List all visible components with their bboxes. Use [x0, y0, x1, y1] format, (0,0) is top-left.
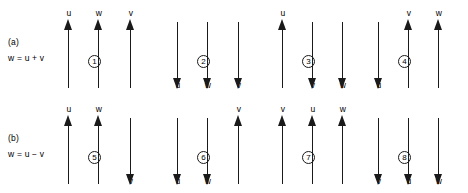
- vector-b6-u: u: [167, 96, 189, 192]
- row-a-equation: w = u + v: [8, 54, 44, 63]
- vector-label: v: [272, 104, 294, 114]
- vector-a1-w: w: [88, 0, 110, 96]
- vector-b5-u: u: [58, 96, 80, 192]
- vector-label: v: [398, 8, 420, 18]
- vector-label: w: [428, 8, 450, 18]
- vector-label: v: [228, 104, 250, 114]
- vector-a4-u: u: [368, 0, 390, 96]
- figure-row-b: (b) w = u − v 5 u w v 6 u w: [0, 96, 468, 192]
- vector-b5-v: v: [120, 96, 142, 192]
- vector-a3-u: u: [272, 0, 294, 96]
- vector-a1-u: u: [58, 0, 80, 96]
- arrow-shaft: [312, 118, 313, 184]
- row-a-tag: (a): [8, 38, 19, 47]
- vector-label: u: [302, 104, 324, 114]
- vector-b6-w: w: [197, 96, 219, 192]
- vector-a3-w: w: [332, 0, 354, 96]
- vector-b7-w: w: [332, 96, 354, 192]
- vector-b7-v: v: [272, 96, 294, 192]
- figure-row-a: (a) w = u + v 1 u w v 2 u w: [0, 0, 468, 96]
- row-b-equation: w = u − v: [8, 150, 44, 159]
- vector-addition-figure: (a) w = u + v 1 u w v 2 u w: [0, 0, 468, 193]
- vector-a4-w: w: [428, 0, 450, 96]
- vector-a2-v: v: [228, 0, 250, 96]
- vector-a3-v: v: [302, 0, 324, 96]
- arrow-shaft: [238, 22, 239, 88]
- vector-b8-w: w: [428, 96, 450, 192]
- arrow-shaft: [177, 22, 178, 88]
- arrow-shaft: [438, 118, 439, 184]
- vector-a2-u: u: [167, 0, 189, 96]
- arrow-shaft: [207, 22, 208, 88]
- vector-b7-u: u: [302, 96, 324, 192]
- arrow-shaft: [98, 22, 99, 88]
- arrow-shaft: [98, 118, 99, 184]
- arrow-shaft: [312, 22, 313, 88]
- arrow-shaft: [130, 118, 131, 184]
- arrow-shaft: [238, 118, 239, 184]
- arrow-shaft: [130, 22, 131, 88]
- arrow-shaft: [68, 22, 69, 88]
- arrow-shaft: [177, 118, 178, 184]
- vector-label: u: [272, 8, 294, 18]
- arrow-shaft: [342, 22, 343, 88]
- arrow-shaft: [438, 22, 439, 88]
- vector-label: v: [120, 8, 142, 18]
- vector-label: w: [332, 104, 354, 114]
- arrow-shaft: [342, 118, 343, 184]
- vector-b8-v: v: [368, 96, 390, 192]
- arrow-shaft: [378, 118, 379, 184]
- row-b-tag: (b): [8, 134, 19, 143]
- arrow-shaft: [408, 118, 409, 184]
- vector-b5-w: w: [88, 96, 110, 192]
- arrow-shaft: [378, 22, 379, 88]
- arrow-shaft: [408, 22, 409, 88]
- vector-a1-v: v: [120, 0, 142, 96]
- vector-b6-v: v: [228, 96, 250, 192]
- vector-label: u: [58, 104, 80, 114]
- vector-label: w: [88, 8, 110, 18]
- vector-a4-v: v: [398, 0, 420, 96]
- arrow-shaft: [282, 118, 283, 184]
- arrow-shaft: [207, 118, 208, 184]
- vector-label: u: [58, 8, 80, 18]
- vector-label: w: [88, 104, 110, 114]
- arrow-shaft: [282, 22, 283, 88]
- arrow-shaft: [68, 118, 69, 184]
- vector-a2-w: w: [197, 0, 219, 96]
- vector-b8-u: u: [398, 96, 420, 192]
